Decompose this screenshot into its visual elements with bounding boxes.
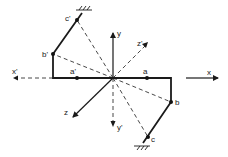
label-y: y (117, 29, 121, 38)
left-frame (53, 6, 113, 78)
label-z-prime: z' (137, 39, 143, 48)
label-c-prime: c' (65, 14, 71, 23)
projection-line-c-prime (77, 20, 113, 78)
point-b-prime (51, 52, 55, 56)
z-prime-axis (113, 46, 145, 78)
point-b (169, 100, 173, 104)
z-axis (73, 78, 113, 117)
z-prime-arrowhead-icon (142, 42, 148, 48)
label-a: a (143, 67, 148, 76)
hatch-icon (134, 146, 150, 150)
left-frame-path (53, 13, 113, 78)
label-x-prime: x' (12, 67, 18, 76)
projection-line-b-prime (53, 54, 113, 78)
right-frame (113, 78, 171, 150)
label-c: c (151, 135, 155, 144)
label-b-prime: b' (42, 50, 48, 59)
label-b: b (175, 98, 180, 107)
point-a (145, 76, 149, 80)
point-c (146, 135, 150, 139)
label-a-prime: a' (70, 67, 76, 76)
label-z: z (64, 108, 68, 117)
y-prime-arrowhead-icon (111, 121, 116, 127)
diagram-canvas: x x' y y' z z' a b c a' b' c' (0, 0, 228, 157)
hatch-icon (76, 6, 92, 10)
label-y-prime: y' (117, 123, 123, 132)
x-prime-arrowhead-icon (13, 76, 18, 81)
axes (13, 33, 218, 127)
label-x: x (207, 68, 211, 77)
projection-line-b (113, 78, 171, 102)
point-c-prime (75, 18, 79, 22)
axes-diagram: x x' y y' z z' a b c a' b' c' (0, 0, 228, 157)
point-a-prime (75, 76, 79, 80)
right-frame-path (113, 78, 171, 143)
